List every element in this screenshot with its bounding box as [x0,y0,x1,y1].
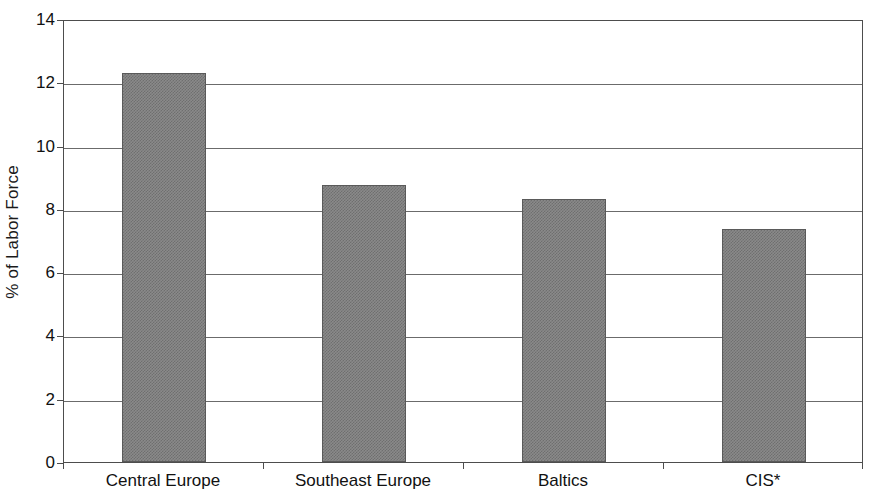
x-axis-tick-mark [263,463,264,469]
x-axis-tick-mark [63,463,64,469]
y-axis-ticks: 02468101214 [0,0,63,502]
x-axis-tick-mark [463,463,464,469]
x-axis-tick-label: Central Europe [106,471,220,491]
x-axis-tick-label: Southeast Europe [295,471,431,491]
x-axis: Central EuropeSoutheast EuropeBalticsCIS… [63,463,864,502]
bar [322,185,406,462]
x-axis-tick-label: Baltics [538,471,588,491]
x-axis-tick-mark [663,463,664,469]
bar [722,229,806,462]
bar-chart: % of Labor Force 02468101214 Central Eur… [0,0,876,502]
bar [522,199,606,462]
plot-area [63,20,863,463]
bar [122,73,206,462]
x-axis-tick-mark [862,463,863,469]
x-axis-tick-label: CIS* [746,471,781,491]
